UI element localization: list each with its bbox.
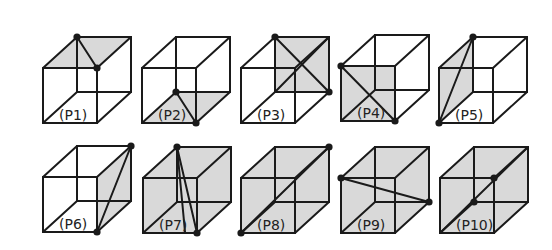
- vertex-dot: [337, 62, 344, 69]
- cube-edge: [493, 92, 527, 123]
- cube-p3: (P3): [241, 33, 333, 123]
- cube-p2: (P2): [142, 37, 230, 127]
- vertex-dot: [271, 33, 278, 40]
- cube-p7: (P7): [143, 143, 231, 236]
- cube-label: (P3): [257, 107, 285, 123]
- cube-p8: (P8): [237, 143, 332, 236]
- cube-label: (P9): [357, 217, 385, 233]
- vertex-dot: [173, 143, 180, 150]
- vertex-dot: [391, 117, 398, 124]
- cube-edge: [395, 35, 429, 66]
- cube-p1: (P1): [43, 33, 131, 123]
- vertex-dot: [193, 229, 200, 236]
- cube-p10: (P10): [440, 147, 528, 233]
- vertex-dot: [93, 228, 100, 235]
- vertex-dot: [337, 174, 344, 181]
- vertex-dot: [172, 88, 179, 95]
- vertex-dot: [73, 33, 80, 40]
- cube-diagram-canvas: (P1)(P2)(P3)(P4)(P5)(P6)(P7)(P8)(P9)(P10…: [0, 0, 552, 250]
- cube-edge: [493, 37, 527, 68]
- vertex-dot: [93, 64, 100, 71]
- vertex-dot: [470, 198, 477, 205]
- cube-edge: [196, 37, 230, 68]
- vertex-dot: [469, 33, 476, 40]
- cross-section-figure: (P1)(P2)(P3)(P4)(P5)(P6)(P7)(P8)(P9)(P10…: [0, 0, 552, 250]
- cube-label: (P4): [357, 105, 385, 121]
- cube-label: (P10): [456, 217, 493, 233]
- vertex-dot: [325, 88, 332, 95]
- cube-edge: [142, 37, 176, 68]
- vertex-dot: [325, 143, 332, 150]
- cube-label: (P7): [159, 217, 187, 233]
- cube-p5: (P5): [435, 33, 527, 126]
- cube-edge: [341, 35, 375, 66]
- cube-p6: (P6): [43, 142, 135, 235]
- cube-label: (P6): [59, 216, 87, 232]
- vertex-dot: [435, 119, 442, 126]
- cube-edge: [241, 37, 275, 68]
- cube-label: (P1): [59, 107, 87, 123]
- cube-p4: (P4): [337, 35, 429, 125]
- cube-label: (P8): [257, 217, 285, 233]
- cube-edge: [97, 92, 131, 123]
- cube-label: (P2): [158, 107, 186, 123]
- cube-edge: [395, 90, 429, 121]
- cube-edge: [295, 92, 329, 123]
- cube-p9: (P9): [337, 147, 432, 233]
- vertex-dot: [192, 119, 199, 126]
- vertex-dot: [127, 142, 134, 149]
- vertex-dot: [425, 198, 432, 205]
- vertex-dot: [490, 174, 497, 181]
- vertex-dot: [237, 229, 244, 236]
- cube-label: (P5): [455, 107, 483, 123]
- cube-edge: [43, 146, 77, 177]
